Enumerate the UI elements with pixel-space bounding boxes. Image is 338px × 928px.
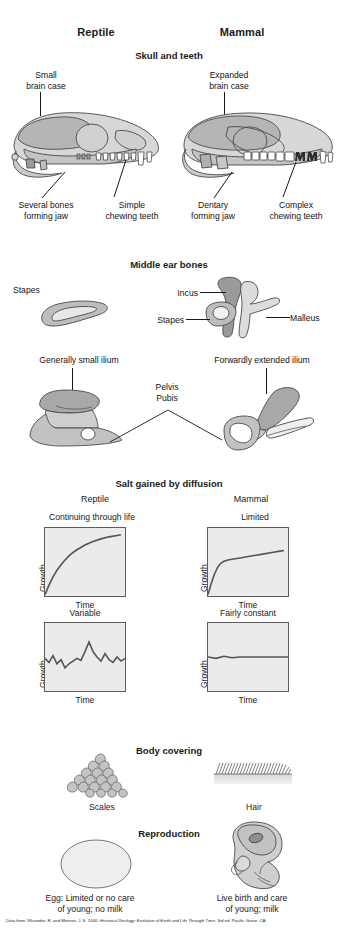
- callout-line-2: forming jaw: [191, 211, 235, 221]
- leader-line-reptile-ilium: [72, 368, 73, 390]
- caption-scales: Scales: [62, 802, 142, 813]
- reptile-stapes-illustration: [36, 298, 116, 334]
- credit-prefix: Data from: Wicander, R. and Monroe, J. S…: [6, 918, 100, 923]
- chart-plot-0: [44, 527, 126, 597]
- callout-line-2: chewing teeth: [105, 211, 158, 221]
- mammal-ear-bones-illustration: [204, 276, 300, 340]
- section-title-growth: Salt gained by diffusion: [0, 478, 338, 489]
- chart-xlabel-2: Time: [44, 695, 126, 705]
- callout-line-2: chewing teeth: [269, 211, 322, 221]
- caption-mammal-reproduction: Live birth and care of young; milk: [182, 893, 322, 914]
- growth-subhead-mammal: Mammal: [196, 494, 306, 504]
- callout-reptile-several-bones-forming-jaw: Several bones forming jaw: [2, 200, 90, 221]
- caption-hair: Hair: [214, 802, 294, 813]
- chart-series-line-1: [208, 550, 284, 594]
- label-mammal-malleus: Malleus: [290, 313, 336, 324]
- chart-xlabel-3: Time: [207, 695, 289, 705]
- callout-line-1: Expanded: [210, 70, 249, 80]
- chart-plot-1: [207, 527, 289, 597]
- chart-title-3: Fairly constant: [199, 608, 297, 618]
- label-mammal-stapes: Stapes: [142, 315, 184, 326]
- column-heading-reptile: Reptile: [46, 26, 146, 38]
- chart-series-line-0: [45, 535, 121, 595]
- chart-series-line-2: [45, 642, 125, 668]
- credit-title: Historical Geology: Evolution of Earth a…: [100, 918, 215, 923]
- chart-title-2: Variable: [44, 608, 126, 618]
- leader-line-malleus: [266, 317, 290, 318]
- chart-plot-3: [207, 622, 289, 692]
- mammal-pelvis-illustration: [212, 386, 322, 456]
- label-mammal-ilium: Forwardly extended ilium: [192, 355, 332, 366]
- callout-mammal-dentary-forming-jaw: Dentary forming jaw: [176, 200, 250, 221]
- leader-line-mammal-jaw: [208, 172, 236, 202]
- chart-series-line-3: [208, 656, 288, 658]
- section-title-middle-ear-bones: Middle ear bones: [0, 259, 338, 270]
- egg-illustration: [58, 836, 134, 892]
- label-pelvis: Pelvis: [156, 382, 179, 392]
- credit-suffix: , 3rd ed. Pacific Grove, CA:: [215, 918, 267, 923]
- label-reptile-ilium: Generally small ilium: [14, 355, 144, 366]
- fetus-illustration: [212, 820, 292, 892]
- callout-reptile-small-brain-case: Small brain case: [8, 70, 84, 91]
- mammal-skull-illustration: [176, 105, 336, 185]
- caption-line-2: of young; no milk: [58, 904, 123, 914]
- callout-line-1: Simple: [119, 200, 145, 210]
- label-reptile-stapes: Stapes: [13, 285, 73, 296]
- callout-mammal-complex-chewing-teeth: Complex chewing teeth: [256, 200, 336, 221]
- callout-line-1: Complex: [279, 200, 313, 210]
- reptile-skull-illustration: [4, 105, 164, 185]
- chart-title-1: Limited: [190, 512, 320, 522]
- callout-reptile-simple-chewing-teeth: Simple chewing teeth: [92, 200, 172, 221]
- column-heading-mammal: Mammal: [192, 26, 292, 38]
- section-title-body-covering: Body covering: [0, 745, 338, 756]
- source-credit: Data from: Wicander, R. and Monroe, J. S…: [6, 918, 336, 924]
- section-title-skull-and-teeth: Skull and teeth: [0, 50, 338, 61]
- chart-plot-2: [44, 622, 126, 692]
- leader-line-reptile-jaw: [38, 172, 68, 202]
- callout-line-2: forming jaw: [24, 211, 68, 221]
- leader-line-mammal-teeth: [276, 162, 302, 200]
- comparison-figure: Reptile Mammal Skull and teeth Small bra…: [0, 0, 338, 928]
- leader-line-reptile-teeth: [108, 160, 132, 200]
- callout-line-2: brain case: [26, 81, 66, 91]
- scales-illustration: [66, 752, 138, 798]
- callout-line-1: Small: [35, 70, 57, 80]
- hair-illustration: [212, 760, 294, 790]
- caption-reptile-reproduction: Egg: Limited or no care of young; no mil…: [18, 893, 162, 914]
- leader-line-incus: [200, 292, 226, 293]
- label-mammal-incus: Incus: [158, 288, 198, 299]
- callout-line-2: brain case: [209, 81, 249, 91]
- caption-line-1: Egg: Limited or no care: [46, 893, 135, 903]
- leader-line-stapes: [186, 319, 210, 320]
- callout-mammal-expanded-brain-case: Expanded brain case: [186, 70, 272, 91]
- chart-title-0: Continuing through life: [22, 512, 162, 522]
- growth-subhead-reptile: Reptile: [40, 494, 150, 504]
- caption-line-1: Live birth and care: [217, 893, 288, 903]
- caption-line-2: of young; milk: [225, 904, 278, 914]
